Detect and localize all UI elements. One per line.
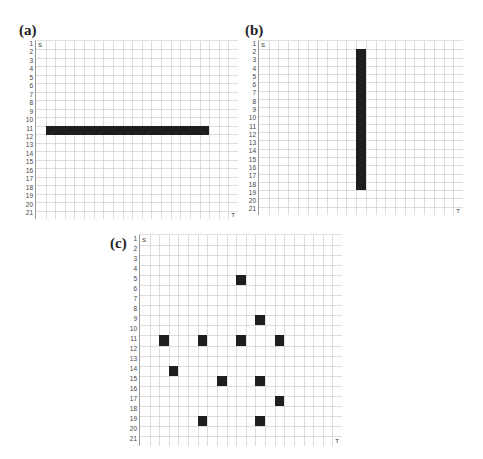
row-label: 7	[13, 92, 33, 99]
row-label: 20	[117, 426, 137, 433]
row-label: 20	[13, 202, 33, 209]
row-label: 8	[13, 100, 33, 107]
row-label: 11	[13, 126, 33, 133]
target-marker: T	[231, 212, 235, 218]
row-label: 15	[236, 157, 256, 164]
grid: ST	[139, 234, 342, 446]
row-label: 19	[236, 190, 256, 197]
row-label: 11	[117, 336, 137, 343]
panel-a-label: (a)	[19, 22, 37, 39]
grid: ST	[35, 40, 238, 219]
row-label: 20	[236, 198, 256, 205]
row-label: 19	[117, 416, 137, 423]
row-label: 4	[13, 66, 33, 73]
row-label: 8	[236, 99, 256, 106]
row-label: 17	[13, 176, 33, 183]
obstacle-cell	[236, 335, 246, 345]
row-label: 4	[117, 266, 137, 273]
row-label: 10	[13, 117, 33, 124]
obstacle-cell	[236, 275, 246, 285]
row-label: 17	[117, 396, 137, 403]
obstacle-cell	[275, 396, 285, 406]
horizontal-wall	[46, 126, 210, 135]
row-label: 9	[117, 316, 137, 323]
row-label: 11	[236, 124, 256, 131]
obstacle-cell	[198, 416, 208, 426]
row-label: 1	[236, 41, 256, 48]
row-label: 14	[13, 151, 33, 158]
row-label: 12	[236, 132, 256, 139]
target-marker: T	[335, 438, 339, 444]
row-label: 9	[13, 109, 33, 116]
row-label: 3	[117, 256, 137, 263]
row-label: 7	[117, 296, 137, 303]
row-label: 6	[236, 82, 256, 89]
row-label: 4	[236, 66, 256, 73]
row-label: 5	[117, 276, 137, 283]
row-label: 14	[236, 148, 256, 155]
row-label: 8	[117, 306, 137, 313]
panel-b-label: (b)	[245, 22, 263, 39]
row-label: 15	[117, 376, 137, 383]
row-label: 13	[236, 140, 256, 147]
row-label: 21	[236, 206, 256, 213]
start-marker: S	[142, 237, 146, 243]
row-label: 14	[117, 366, 137, 373]
obstacle-cell	[255, 376, 265, 386]
row-label: 18	[236, 182, 256, 189]
row-label: 2	[117, 246, 137, 253]
row-label: 12	[13, 134, 33, 141]
grid: ST	[258, 40, 463, 215]
row-label: 17	[236, 173, 256, 180]
row-label: 2	[236, 49, 256, 56]
vertical-wall	[356, 49, 366, 190]
obstacle-cell	[255, 315, 265, 325]
row-label: 5	[236, 74, 256, 81]
row-label: 10	[236, 115, 256, 122]
row-label: 3	[236, 57, 256, 64]
row-label: 1	[117, 236, 137, 243]
row-label: 1	[13, 41, 33, 48]
row-label: 7	[236, 90, 256, 97]
row-label: 13	[13, 142, 33, 149]
obstacle-cell	[275, 335, 285, 345]
row-label: 16	[13, 168, 33, 175]
row-label: 19	[13, 193, 33, 200]
row-label: 18	[13, 185, 33, 192]
row-label: 16	[236, 165, 256, 172]
obstacle-cell	[159, 335, 169, 345]
row-label: 13	[117, 356, 137, 363]
row-label: 15	[13, 159, 33, 166]
row-label: 10	[117, 326, 137, 333]
start-marker: S	[261, 42, 265, 48]
row-label: 21	[13, 210, 33, 217]
row-label: 18	[117, 406, 137, 413]
row-label: 6	[13, 83, 33, 90]
start-marker: S	[38, 42, 42, 48]
obstacle-cell	[198, 335, 208, 345]
target-marker: T	[456, 208, 460, 214]
row-label: 3	[13, 58, 33, 65]
row-label: 9	[236, 107, 256, 114]
row-label: 2	[13, 49, 33, 56]
row-label: 6	[117, 286, 137, 293]
obstacle-cell	[217, 376, 227, 386]
obstacle-cell	[255, 416, 265, 426]
row-label: 12	[117, 346, 137, 353]
row-label: 16	[117, 386, 137, 393]
obstacle-cell	[169, 366, 179, 376]
row-label: 21	[117, 436, 137, 443]
row-label: 5	[13, 75, 33, 82]
